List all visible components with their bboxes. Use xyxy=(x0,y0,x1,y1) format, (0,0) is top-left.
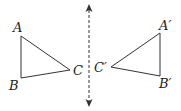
diagram-canvas xyxy=(0,0,181,111)
label-c: C xyxy=(73,64,83,77)
label-b: B xyxy=(9,79,19,92)
label-a: A xyxy=(13,21,22,34)
label-b-prime: B′ xyxy=(159,77,172,90)
label-c-prime: C′ xyxy=(94,61,107,74)
triangle-abc xyxy=(21,36,70,78)
triangle-abc-prime xyxy=(111,33,160,76)
label-a-prime: A′ xyxy=(159,19,171,32)
reflection-diagram: A B C A′ B′ C′ xyxy=(0,0,181,111)
